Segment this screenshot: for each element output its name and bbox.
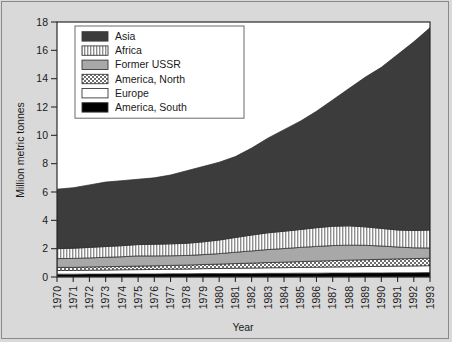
legend-label: America, North (115, 73, 185, 85)
chart-legend: AsiaAfricaFormer USSRAmerica, NorthEurop… (75, 26, 244, 118)
y-tick-label: 10 (36, 129, 48, 141)
x-tick-label: 1970 (51, 286, 63, 310)
x-tick-label: 1971 (67, 286, 79, 310)
x-tick-label: 1980 (213, 286, 225, 310)
legend-swatch-vertical-lines (82, 46, 108, 55)
y-tick-label: 0 (42, 271, 48, 283)
y-tick-label: 12 (36, 101, 48, 113)
legend-swatch-solid-black (82, 103, 108, 112)
legend-label: Europe (115, 87, 149, 99)
legend-label: Asia (115, 30, 136, 42)
x-tick-label: 1990 (375, 286, 387, 310)
x-tick-label: 1992 (407, 286, 419, 310)
legend-entry: America, North (82, 73, 185, 85)
x-tick-label: 1984 (278, 286, 290, 310)
x-tick-label: 1981 (229, 286, 241, 310)
legend-entry: Europe (82, 87, 149, 99)
legend-label: Africa (115, 44, 142, 56)
y-tick-label: 16 (36, 44, 48, 56)
x-tick-label: 1974 (116, 286, 128, 310)
y-tick-label: 8 (42, 157, 48, 169)
y-tick-label: 14 (36, 72, 48, 84)
legend-swatch-solid-gray (82, 60, 108, 69)
figure-container: 024681012141618 197019711972197319741975… (0, 0, 452, 342)
x-tick-label: 1986 (310, 286, 322, 310)
x-tick-label: 1993 (424, 286, 436, 310)
legend-entry: Former USSR (82, 58, 181, 70)
x-tick-label: 1979 (197, 286, 209, 310)
legend-swatch-solid-dark (82, 32, 108, 41)
legend-swatch-solid-white (82, 89, 108, 98)
x-tick-label: 1985 (294, 286, 306, 310)
x-tick-label: 1972 (83, 286, 95, 310)
legend-entry: America, South (82, 101, 187, 113)
stacked-area-chart: 024681012141618 197019711972197319741975… (0, 0, 452, 342)
x-tick-label: 1991 (391, 286, 403, 310)
y-tick-label: 18 (36, 16, 48, 28)
x-tick-label: 1973 (99, 286, 111, 310)
x-tick-label: 1988 (343, 286, 355, 310)
x-tick-label: 1977 (164, 286, 176, 310)
y-tick-label: 6 (42, 186, 48, 198)
legend-label: America, South (115, 101, 187, 113)
legend-label: Former USSR (115, 58, 181, 70)
x-tick-label: 1975 (132, 286, 144, 310)
x-tick-label: 1989 (359, 286, 371, 310)
legend-swatch-checker (82, 74, 108, 83)
y-tick-label: 2 (42, 242, 48, 254)
y-tick-label: 4 (42, 214, 48, 226)
x-tick-label: 1983 (262, 286, 274, 310)
x-tick-label: 1982 (245, 286, 257, 310)
y-axis-title: Million metric tonnes (14, 102, 26, 198)
x-tick-label: 1978 (180, 286, 192, 310)
x-tick-label: 1987 (326, 286, 338, 310)
x-tick-label: 1976 (148, 286, 160, 310)
x-axis-title: Year (232, 321, 254, 333)
